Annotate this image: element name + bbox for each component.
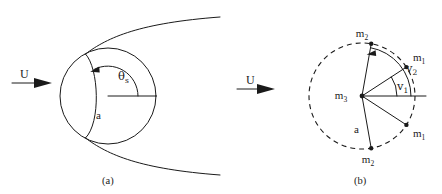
figure-container: U θs a (a) U [0, 0, 442, 194]
panel-b-diagram: U m2 m1 m1 m2 m3 v1 v2 a (b) [221, 0, 442, 194]
point-m2-top [369, 42, 373, 46]
label-m3-center: m3 [335, 89, 348, 104]
label-m1-bottom: m1 [413, 127, 426, 142]
radial-line-m2-top [362, 44, 371, 96]
label-m2-bottom: m2 [362, 153, 375, 168]
label-m1-bottom-subscript: 1 [422, 133, 426, 142]
point-m1-bottom [404, 123, 408, 127]
label-m2-top: m2 [356, 27, 369, 42]
separation-angle-label: θs [118, 69, 129, 85]
label-m3-center-subscript: 3 [343, 95, 347, 104]
label-m2-top-subscript: 2 [364, 33, 368, 42]
radius-label-a: a [96, 109, 101, 121]
label-angle-v1: v1 [396, 79, 408, 95]
flow-label-b: U [246, 73, 255, 87]
label-v2-subscript: 2 [413, 68, 418, 77]
separation-streamline [86, 54, 97, 138]
label-m1-top-subscript: 1 [422, 57, 426, 66]
flow-arrow-a-head [34, 78, 52, 88]
panel-b-caption: (b) [354, 175, 367, 187]
panel-a-diagram: U θs a (a) [0, 0, 221, 194]
label-angle-v2: v2 [405, 61, 418, 77]
radius-label-b: a [354, 123, 359, 135]
label-m1-top: m1 [413, 51, 426, 66]
angle-arc-v2-arrowhead [367, 50, 377, 56]
flow-arrow-b [237, 84, 275, 94]
point-m2-bottom [369, 146, 373, 150]
point-m3-center [360, 94, 365, 99]
theta-angle-arc [94, 66, 138, 96]
flow-arrow-a [12, 78, 52, 88]
panel-a-caption: (a) [102, 175, 114, 187]
label-m2-bottom-subscript: 2 [370, 159, 374, 168]
flow-label-a: U [20, 67, 29, 81]
theta-angle-arrowhead [90, 67, 100, 73]
label-v1-subscript: 1 [404, 86, 409, 95]
radial-line-m2-bottom [362, 96, 371, 148]
theta-symbol: θ [118, 69, 125, 83]
theta-subscript: s [125, 76, 129, 85]
radial-line-m1-bottom [362, 96, 406, 125]
flow-arrow-b-head [257, 84, 275, 94]
